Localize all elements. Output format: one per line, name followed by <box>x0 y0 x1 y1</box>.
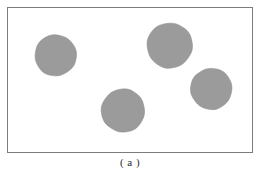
figure-container: ( a ) <box>0 0 260 178</box>
figure-caption: ( a ) <box>0 155 260 169</box>
blob-top-right <box>147 23 192 68</box>
blob-bottom-center <box>101 89 144 132</box>
blob-top-left <box>35 35 76 76</box>
figure-panel <box>7 7 253 153</box>
blob-mid-right <box>191 68 232 109</box>
blob-canvas <box>8 8 252 152</box>
blob-group <box>35 23 232 132</box>
